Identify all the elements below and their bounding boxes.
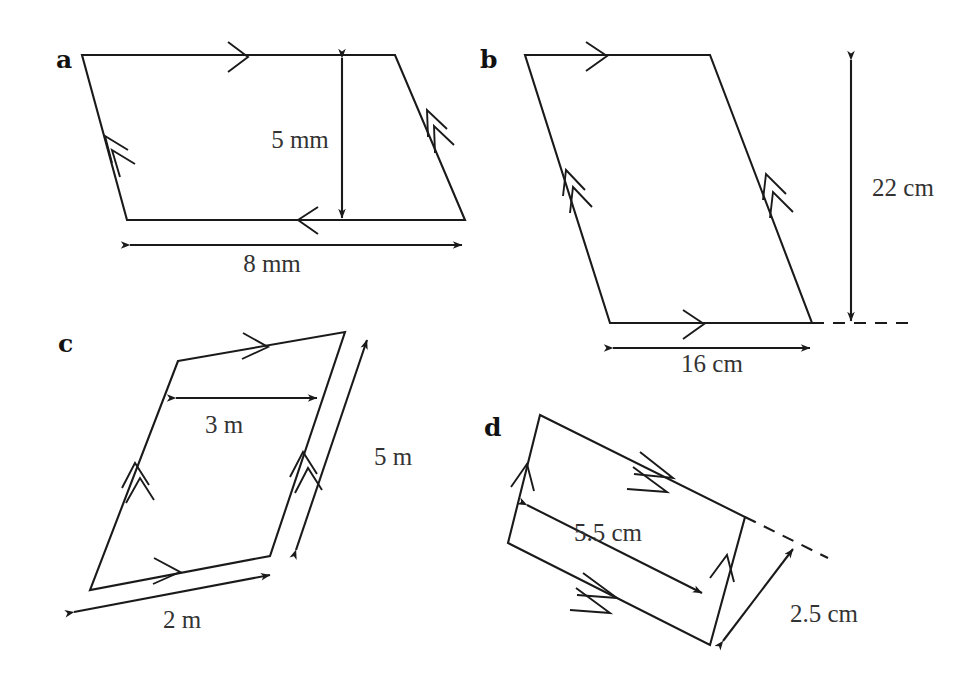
dimension-a-base: 8 mm — [130, 245, 462, 277]
dimension-a-base-label: 8 mm — [243, 250, 301, 277]
dimension-a-height-label: 5 mm — [271, 126, 329, 153]
panel-c-label: c — [58, 329, 73, 358]
panel-a: a 5 mm — [56, 42, 465, 277]
dimension-c-height: 3 m — [176, 398, 317, 438]
panel-c: c 3 m 5 m — [58, 329, 413, 633]
dashed-extension-d — [745, 517, 828, 558]
edge-tick-d-right — [710, 555, 734, 582]
edge-tick-c-bottom — [153, 558, 180, 584]
dimension-d-height: 2.5 cm — [723, 549, 859, 641]
panel-a-label: a — [56, 45, 72, 74]
dimension-c-height-label: 3 m — [205, 411, 244, 438]
dimension-b-height-label: 22 cm — [872, 174, 934, 201]
dimension-b-base-label: 16 cm — [681, 350, 743, 377]
edge-tick-d-top — [627, 452, 673, 492]
edge-tick-b-top — [586, 42, 607, 71]
parallelogram-b-outline — [525, 55, 812, 323]
edge-tick-a-left — [105, 136, 135, 177]
panel-d-label: d — [484, 413, 501, 442]
dimension-c-side-label: 5 m — [374, 443, 413, 470]
edge-tick-b-right — [763, 174, 793, 218]
parallelogram-c-outline — [90, 332, 345, 590]
dimension-d-height-label: 2.5 cm — [790, 600, 859, 627]
panel-b-label: b — [480, 45, 497, 74]
edge-tick-a-top — [228, 42, 248, 72]
dimension-a-height: 5 mm — [271, 58, 342, 218]
figure-canvas: a 5 mm — [0, 0, 971, 681]
dimension-c-side: 5 m — [296, 340, 413, 550]
edge-tick-a-right — [427, 110, 454, 153]
geometry-figure: a 5 mm — [0, 0, 971, 681]
dimension-c-base-label: 2 m — [163, 606, 202, 633]
panel-d: d 5.5 cm — [484, 413, 859, 645]
dimension-d-base: 5.5 cm — [527, 505, 702, 593]
edge-tick-b-bottom — [683, 310, 704, 339]
panel-b: b 22 cm — [480, 42, 934, 377]
dimension-b-height: 22 cm — [851, 60, 934, 321]
dimension-c-base: 2 m — [74, 575, 270, 633]
dimension-d-base-label: 5.5 cm — [574, 519, 643, 546]
dimension-b-base: 16 cm — [613, 348, 810, 377]
